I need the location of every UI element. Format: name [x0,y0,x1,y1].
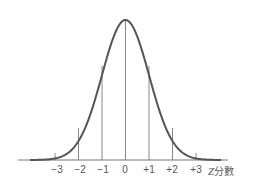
tick-label: −3 [51,164,62,175]
tick-label: +2 [166,164,177,175]
axis-unit: 分數 [214,166,234,177]
tick-label: +1 [143,164,154,175]
tick-label: +3 [190,164,201,175]
tick-label: −1 [97,164,108,175]
tick-label: 0 [122,164,128,175]
normal-curve-diagram: −3 −2 −1 0 +1 +2 +3 Z分數 [0,0,255,184]
bell-curve-graphic [0,0,255,184]
tick-label: −2 [74,164,85,175]
axis-label: Z分數 [208,163,234,178]
sd-lines [55,20,196,160]
